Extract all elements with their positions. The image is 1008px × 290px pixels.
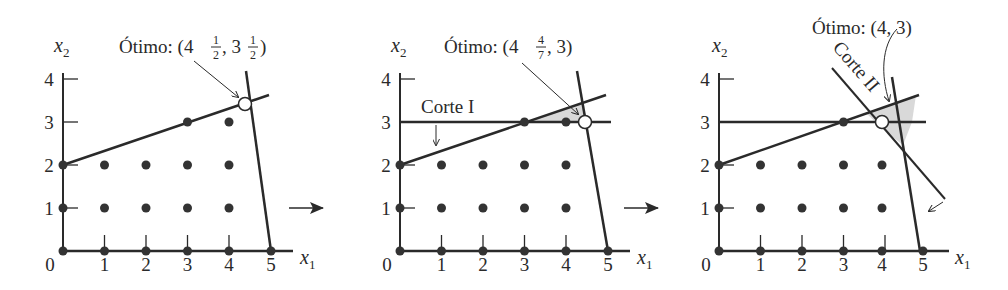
optimum-label-1: Ótimo: (4	[119, 36, 194, 58]
svg-text:3: 3	[839, 254, 849, 275]
svg-text:2: 2	[141, 254, 151, 275]
optimum-fraction-1a: 1 2	[211, 33, 221, 62]
svg-text:5: 5	[603, 254, 613, 275]
svg-text:4: 4	[877, 254, 887, 275]
svg-text:2: 2	[250, 48, 256, 62]
optimum-label-2-end: , 3)	[547, 36, 572, 58]
svg-text:3: 3	[183, 254, 193, 275]
svg-text:3: 3	[520, 254, 530, 275]
y-axis-label: x2	[390, 34, 406, 60]
panel-2-y-ticks: 1 2 3 4	[381, 69, 391, 219]
cut-2-line	[832, 68, 945, 199]
svg-text:2: 2	[213, 48, 219, 62]
panel-1	[59, 61, 294, 256]
svg-text:1: 1	[44, 198, 54, 219]
panel-2-x-ticks: 1 2 3 4 5	[437, 254, 613, 275]
optimum-point	[876, 116, 889, 129]
y-axis-label: x2	[711, 34, 727, 60]
svg-text:1: 1	[756, 254, 766, 275]
optimum-label-1-mid: , 3	[222, 36, 241, 57]
cutting-plane-figure: 0 1 2 3 4 5 1 2 3 4 x2 x1 Ótimo: (4 1 2 …	[0, 0, 1008, 290]
svg-text:5: 5	[918, 254, 928, 275]
x-axis-label: x1	[636, 246, 652, 272]
optimum-label-1-end: )	[260, 36, 266, 58]
panel-3	[715, 29, 950, 256]
svg-text:1: 1	[250, 33, 256, 47]
panel-1-x-ticks: 1 2 3 4 5	[100, 254, 276, 275]
optimum-point	[579, 116, 592, 129]
svg-text:2: 2	[381, 155, 391, 176]
svg-text:2: 2	[44, 155, 54, 176]
svg-text:1: 1	[700, 198, 710, 219]
svg-text:3: 3	[381, 112, 391, 133]
origin-label: 0	[382, 254, 392, 275]
svg-text:4: 4	[538, 33, 544, 47]
svg-text:1: 1	[100, 254, 110, 275]
svg-text:4: 4	[44, 69, 54, 90]
svg-text:4: 4	[224, 254, 234, 275]
y-axis-label: x2	[53, 34, 69, 60]
cut-2-label: Corte II	[829, 37, 884, 96]
optimum-point	[239, 98, 252, 111]
panel-3-x-ticks: 1 2 3 4 5	[756, 254, 928, 275]
optimum-label-2: Ótimo: (4	[444, 36, 519, 58]
svg-text:7: 7	[538, 48, 544, 62]
origin-label: 0	[45, 254, 55, 275]
x-axis-label: x1	[299, 246, 315, 272]
svg-text:4: 4	[700, 69, 710, 90]
svg-text:4: 4	[381, 69, 391, 90]
integer-points	[59, 118, 276, 256]
optimum-fraction-1b: 1 2	[248, 33, 258, 62]
panel-3-y-ticks: 1 2 3 4	[700, 69, 710, 219]
svg-text:2: 2	[478, 254, 488, 275]
optimum-fraction-2: 4 7	[536, 33, 546, 62]
svg-text:3: 3	[700, 112, 710, 133]
cut-1-label: Corte I	[421, 96, 474, 117]
svg-text:5: 5	[266, 254, 276, 275]
panel-1-y-ticks: 1 2 3 4	[44, 69, 54, 219]
svg-text:1: 1	[437, 254, 447, 275]
svg-text:2: 2	[797, 254, 807, 275]
integer-points	[396, 118, 613, 256]
svg-text:1: 1	[381, 198, 391, 219]
svg-text:2: 2	[700, 155, 710, 176]
origin-label: 0	[701, 254, 711, 275]
svg-text:3: 3	[44, 112, 54, 133]
svg-text:4: 4	[561, 254, 571, 275]
x-axis-label: x1	[954, 246, 970, 272]
panel-2	[396, 63, 631, 256]
svg-text:1: 1	[213, 33, 219, 47]
optimum-label-3: Ótimo: (4, 3)	[812, 17, 912, 39]
